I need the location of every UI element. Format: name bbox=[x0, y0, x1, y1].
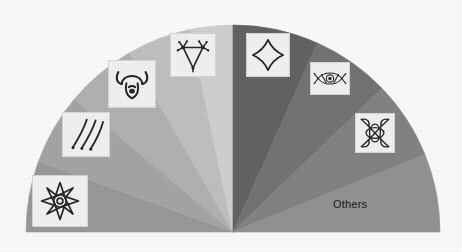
slice-icon-box-ram-head bbox=[108, 60, 156, 108]
triangle-node-icon bbox=[173, 36, 213, 74]
x-knot-icon bbox=[358, 116, 392, 150]
ram-head-icon bbox=[112, 64, 152, 104]
slice-icon-box-eye-vesica bbox=[310, 62, 350, 95]
slice-icon-box-three-diagonal-strokes bbox=[62, 112, 110, 157]
eye-vesica-icon bbox=[313, 65, 347, 92]
chart-figure: Others bbox=[0, 0, 462, 252]
slice-icon-box-x-interlace-knot bbox=[355, 113, 395, 153]
three-strokes-icon bbox=[66, 116, 106, 153]
slice-icon-box-quatrefoil bbox=[246, 33, 290, 77]
quatrefoil-icon bbox=[250, 37, 286, 73]
slice-icon-box-eight-pointed-star-knot bbox=[32, 175, 88, 227]
slice-label-others: Others bbox=[333, 198, 367, 210]
eight-point-star-knot-icon bbox=[37, 180, 83, 222]
slice-icon-box-triangle-node-figure bbox=[170, 33, 216, 77]
